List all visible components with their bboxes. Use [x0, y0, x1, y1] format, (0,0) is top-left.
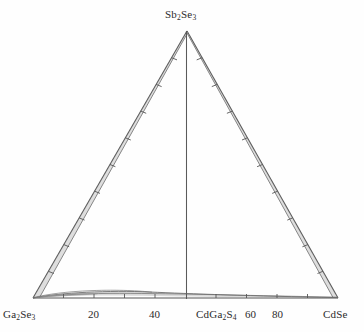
edge-strip-shading	[33, 31, 338, 298]
composition-label-cdga2s4-sub2: 4	[233, 313, 237, 322]
vertex-label-ga2se3: Ga2Se3	[3, 308, 36, 320]
ternary-phase-diagram-figure: Sb2Se3 Ga2Se3 CdSe CdGa2S4 20 40 60 80	[0, 0, 364, 332]
vertex-label-sb2se3-text: Sb	[165, 8, 177, 20]
vertex-label-cdse-text: CdSe	[323, 308, 348, 320]
vertex-label-ga2se3-sub1: 2	[16, 313, 20, 322]
vertex-label-sb2se3-sub2: 3	[192, 13, 196, 22]
vertex-label-ga2se3-sub2: 3	[32, 313, 36, 322]
triangle-outline	[33, 31, 338, 298]
composition-label-cdga2s4-text2: S	[226, 308, 232, 320]
composition-label-cdga2s4-text: CdGa	[196, 308, 222, 320]
phase-diagram-canvas	[0, 0, 364, 332]
vertex-label-sb2se3-sub1: 2	[177, 13, 181, 22]
vertex-label-ga2se3-text2: Se	[20, 308, 31, 320]
composition-label-cdga2s4: CdGa2S4	[196, 308, 237, 320]
composition-label-cdga2s4-sub1: 2	[222, 313, 226, 322]
vertex-label-cdse: CdSe	[323, 308, 348, 320]
vertex-label-sb2se3-text2: Se	[181, 8, 192, 20]
vertex-label-sb2se3: Sb2Se3	[165, 8, 196, 20]
vertex-label-ga2se3-text: Ga	[3, 308, 16, 320]
ga2se3-solid-solution-field	[33, 290, 338, 298]
axis-tick-label-40: 40	[149, 308, 160, 320]
axis-tick-label-80: 80	[272, 308, 283, 320]
axis-tick-label-20: 20	[88, 308, 99, 320]
axis-tick-label-60: 60	[245, 308, 256, 320]
